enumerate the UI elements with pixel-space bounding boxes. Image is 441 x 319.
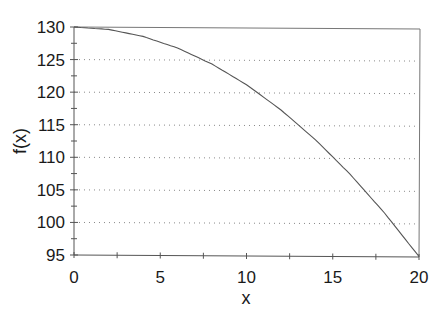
gridline <box>74 125 419 127</box>
y-tick-label: 95 <box>46 246 65 265</box>
y-tick-label: 130 <box>37 18 65 37</box>
chart: 95100105110115120125130 05101520 x f(x) <box>0 0 441 319</box>
tick-marks <box>70 27 419 260</box>
gridline <box>74 92 419 94</box>
x-tick-label: 15 <box>323 268 342 287</box>
x-tick-label: 20 <box>410 268 429 287</box>
y-axis-title: f(x) <box>10 128 30 154</box>
x-tick-label: 5 <box>156 268 165 287</box>
x-tick-label: 0 <box>69 268 78 287</box>
x-axis-title: x <box>242 288 251 308</box>
plot-top-border <box>74 27 420 29</box>
y-tick-label: 100 <box>37 213 65 232</box>
y-tick-label: 105 <box>37 181 65 200</box>
gridline <box>74 190 419 192</box>
x-tick-label: 10 <box>237 268 256 287</box>
plot-right-border <box>419 29 420 257</box>
data-line-f-of-x <box>74 27 419 257</box>
y-tick-label: 115 <box>38 116 65 135</box>
gridline <box>74 222 419 224</box>
y-tick-label: 120 <box>37 83 65 102</box>
axes <box>74 27 420 257</box>
y-tick-labels: 95100105110115120125130 <box>37 18 65 265</box>
y-tick-label: 110 <box>38 148 65 167</box>
x-tick-labels: 05101520 <box>69 268 428 287</box>
gridline <box>74 60 419 62</box>
y-tick-label: 125 <box>37 51 65 70</box>
gridline <box>74 157 419 159</box>
